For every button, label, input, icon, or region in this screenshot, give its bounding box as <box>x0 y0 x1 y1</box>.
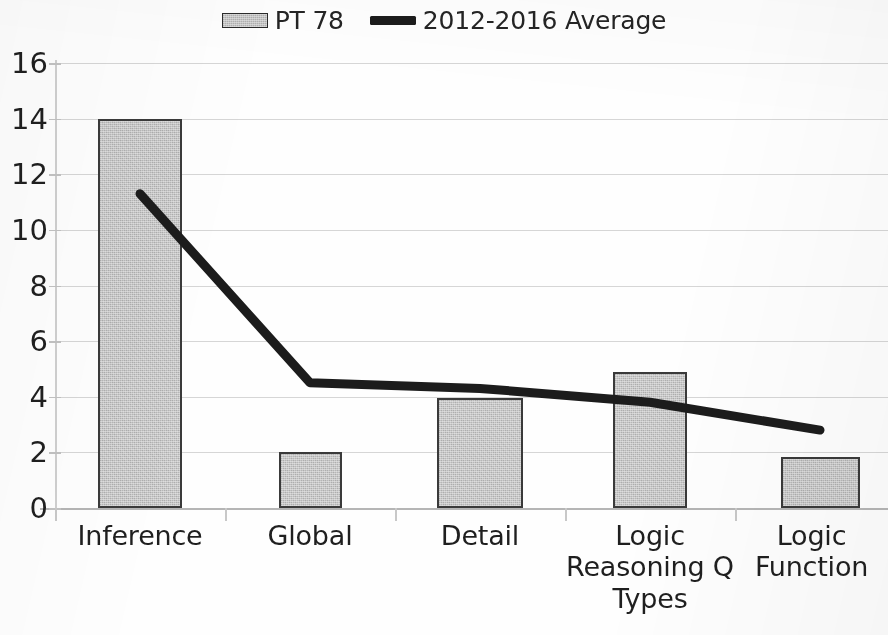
x-category-label-line: Function <box>735 551 888 582</box>
y-tick-label-10: 10 <box>4 215 48 244</box>
x-category-label-global: Global <box>225 520 395 551</box>
bar-global[interactable] <box>279 452 342 508</box>
y-tick-label-16: 16 <box>4 49 48 78</box>
legend-item-bar-series: PT 78 <box>222 8 344 33</box>
x-category-label-logic-reasoning-q-types: LogicReasoning QTypes <box>565 520 735 614</box>
bar-detail[interactable] <box>437 398 523 508</box>
y-tick-label-4: 4 <box>4 382 48 411</box>
y-tick-label-8: 8 <box>4 271 48 300</box>
y-tick-label-12: 12 <box>4 160 48 189</box>
y-tick-label-2: 2 <box>4 438 48 467</box>
bar-inference[interactable] <box>98 119 182 508</box>
y-tick-label-6: 6 <box>4 327 48 356</box>
y-tick-label-0: 0 <box>4 494 48 523</box>
x-category-label-line: Reasoning Q <box>565 551 735 582</box>
x-category-label-inference: Inference <box>55 520 225 551</box>
x-category-label-line: Inference <box>55 520 225 551</box>
legend-label-line-series: 2012-2016 Average <box>423 8 666 33</box>
bar-logic-function[interactable] <box>781 457 860 508</box>
chart-container: PT 78 2012-2016 Average 16 14 12 1 <box>0 0 888 635</box>
x-category-label-logic-function: LogicFunction <box>735 520 888 583</box>
x-category-label-line: Logic <box>565 520 735 551</box>
legend-item-line-series: 2012-2016 Average <box>370 8 666 33</box>
y-tick-label-14: 14 <box>4 104 48 133</box>
legend-label-bar-series: PT 78 <box>275 8 344 33</box>
legend-bar-swatch-icon <box>222 13 268 28</box>
x-axis-category-labels: Inference Global Detail LogicReasoning Q… <box>0 520 888 635</box>
chart-legend: PT 78 2012-2016 Average <box>0 0 888 40</box>
x-category-label-detail: Detail <box>395 520 565 551</box>
x-category-label-line: Global <box>225 520 395 551</box>
bar-logic-reasoning-q-types[interactable] <box>613 372 687 508</box>
x-category-label-line: Detail <box>395 520 565 551</box>
x-category-label-line: Types <box>565 583 735 614</box>
legend-line-swatch-icon <box>370 16 416 25</box>
x-category-label-line: Logic <box>735 520 888 551</box>
